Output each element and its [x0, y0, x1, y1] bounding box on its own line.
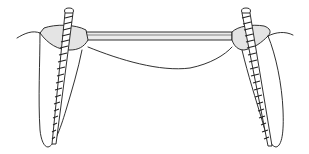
illustration-svg: [0, 0, 309, 154]
dental-illustration: [0, 0, 309, 154]
connecting-bar: [86, 32, 232, 40]
